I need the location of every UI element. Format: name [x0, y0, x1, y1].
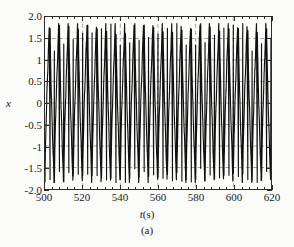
y-tick-label: -0.5: [2, 119, 42, 130]
x-major-tick: [158, 185, 159, 190]
y-major-tick: [44, 16, 49, 17]
x-major-tick: [82, 185, 83, 190]
x-tick-label: 620: [252, 192, 292, 203]
x-major-tick: [234, 16, 235, 21]
x-minor-tick: [67, 16, 68, 19]
x-tick-label: 520: [62, 192, 102, 203]
x-minor-tick: [226, 16, 227, 19]
x-major-tick: [196, 16, 197, 21]
x-minor-tick: [150, 187, 151, 190]
x-minor-tick: [59, 187, 60, 190]
y-major-tick: [44, 38, 49, 39]
y-tick-label: -1: [2, 141, 42, 152]
x-minor-tick: [211, 16, 212, 19]
x-major-tick: [272, 16, 273, 21]
x-minor-tick: [211, 187, 212, 190]
x-minor-tick: [226, 187, 227, 190]
x-minor-tick: [112, 16, 113, 19]
x-minor-tick: [181, 187, 182, 190]
x-minor-tick: [166, 16, 167, 19]
y-major-tick: [267, 81, 272, 82]
x-minor-tick: [112, 187, 113, 190]
y-major-tick: [44, 103, 49, 104]
y-axis-title: x: [6, 97, 11, 109]
y-tick-label: 1.5: [2, 32, 42, 43]
x-minor-tick: [67, 187, 68, 190]
x-axis-title: t(s): [0, 208, 294, 220]
x-minor-tick: [105, 16, 106, 19]
y-major-tick: [267, 103, 272, 104]
y-tick-label: 2.0: [2, 11, 42, 22]
x-axis-title-unit: (s): [143, 208, 155, 220]
x-minor-tick: [249, 16, 250, 19]
x-tick-label: 600: [214, 192, 254, 203]
x-minor-tick: [242, 16, 243, 19]
x-minor-tick: [128, 16, 129, 19]
y-major-tick: [44, 168, 49, 169]
x-minor-tick: [97, 187, 98, 190]
x-minor-tick: [181, 16, 182, 19]
x-minor-tick: [52, 187, 53, 190]
x-major-tick: [272, 185, 273, 190]
x-minor-tick: [143, 16, 144, 19]
x-minor-tick: [188, 16, 189, 19]
y-major-tick: [44, 60, 49, 61]
x-minor-tick: [173, 187, 174, 190]
x-minor-tick: [135, 187, 136, 190]
x-minor-tick: [90, 16, 91, 19]
x-minor-tick: [242, 187, 243, 190]
x-minor-tick: [188, 187, 189, 190]
y-major-tick: [44, 81, 49, 82]
x-tick-label: 540: [100, 192, 140, 203]
x-minor-tick: [257, 187, 258, 190]
x-minor-tick: [219, 187, 220, 190]
x-minor-tick: [264, 187, 265, 190]
x-tick-label: 500: [24, 192, 64, 203]
x-tick-label: 580: [176, 192, 216, 203]
x-minor-tick: [150, 16, 151, 19]
x-minor-tick: [143, 187, 144, 190]
y-major-tick: [44, 125, 49, 126]
figure-subcaption: (a): [0, 224, 294, 236]
plot-area: [44, 16, 272, 190]
y-major-tick: [267, 147, 272, 148]
x-minor-tick: [52, 16, 53, 19]
y-major-tick: [267, 38, 272, 39]
x-minor-tick: [97, 16, 98, 19]
x-minor-tick: [128, 187, 129, 190]
x-major-tick: [158, 16, 159, 21]
x-minor-tick: [90, 187, 91, 190]
x-minor-tick: [173, 16, 174, 19]
y-tick-label: 1: [2, 54, 42, 65]
x-major-tick: [234, 185, 235, 190]
x-minor-tick: [74, 16, 75, 19]
x-minor-tick: [105, 187, 106, 190]
x-minor-tick: [166, 187, 167, 190]
x-minor-tick: [264, 16, 265, 19]
x-minor-tick: [59, 16, 60, 19]
x-minor-tick: [204, 187, 205, 190]
x-major-tick: [196, 185, 197, 190]
y-major-tick: [267, 60, 272, 61]
x-minor-tick: [219, 16, 220, 19]
x-minor-tick: [74, 187, 75, 190]
y-major-tick: [267, 125, 272, 126]
y-major-tick: [267, 16, 272, 17]
x-tick-label: 560: [138, 192, 178, 203]
x-minor-tick: [204, 16, 205, 19]
x-minor-tick: [135, 16, 136, 19]
x-major-tick: [120, 16, 121, 21]
y-major-tick: [44, 147, 49, 148]
signal-trace: [45, 17, 271, 189]
x-minor-tick: [257, 16, 258, 19]
x-major-tick: [82, 16, 83, 21]
y-major-tick: [267, 168, 272, 169]
figure-panel: 2.01.510.50-0.5-1-1.5-2.0 50052054056058…: [0, 0, 294, 247]
y-tick-label: -1.5: [2, 163, 42, 174]
x-minor-tick: [249, 187, 250, 190]
y-tick-label: 0.5: [2, 76, 42, 87]
x-major-tick: [120, 185, 121, 190]
